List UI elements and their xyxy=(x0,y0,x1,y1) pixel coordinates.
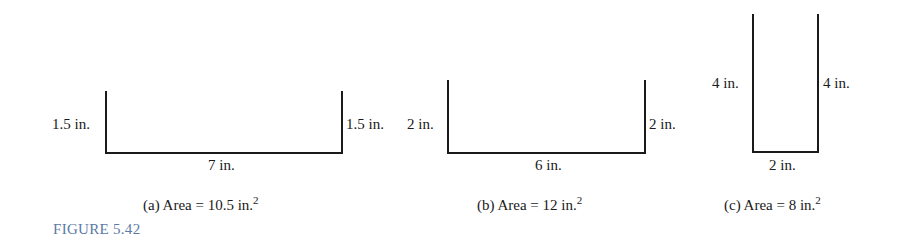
panel-a-caption-exponent: 2 xyxy=(253,194,259,206)
panel-b-caption-text: (b) Area = 12 in. xyxy=(477,197,577,213)
panel-a-left-side xyxy=(105,91,107,154)
panel-a-caption-text: (a) Area = 10.5 in. xyxy=(143,197,253,213)
panel-c-bottom-side xyxy=(752,151,819,153)
panel-a-bottom-label: 7 in. xyxy=(208,158,235,173)
panel-a-left-label: 1.5 in. xyxy=(52,117,90,132)
panel-c-right-label: 4 in. xyxy=(823,76,850,91)
panel-c-right-side xyxy=(817,14,819,153)
panel-c-left-side xyxy=(752,14,754,153)
panel-b-bottom-label: 6 in. xyxy=(535,158,562,173)
panel-c-caption-exponent: 2 xyxy=(815,194,821,206)
panel-b-bottom-side xyxy=(447,152,646,154)
panel-b-left-label: 2 in. xyxy=(407,117,434,132)
panel-b-caption: (b) Area = 12 in.2 xyxy=(477,195,582,213)
panel-a-right-side xyxy=(341,91,343,154)
figure-label: FIGURE 5.42 xyxy=(53,222,140,237)
panel-c-caption-text: (c) Area = 8 in. xyxy=(724,197,815,213)
panel-c-left-label: 4 in. xyxy=(712,76,739,91)
panel-b-left-side xyxy=(447,80,449,154)
panel-b-right-label: 2 in. xyxy=(649,117,676,132)
panel-a-right-label: 1.5 in. xyxy=(346,117,384,132)
panel-c-caption: (c) Area = 8 in.2 xyxy=(724,195,821,213)
panel-a-caption: (a) Area = 10.5 in.2 xyxy=(143,195,259,213)
panel-b-caption-exponent: 2 xyxy=(577,194,583,206)
panel-b-right-side xyxy=(644,80,646,154)
panel-a-bottom-side xyxy=(105,152,343,154)
panel-c-bottom-label: 2 in. xyxy=(769,158,796,173)
